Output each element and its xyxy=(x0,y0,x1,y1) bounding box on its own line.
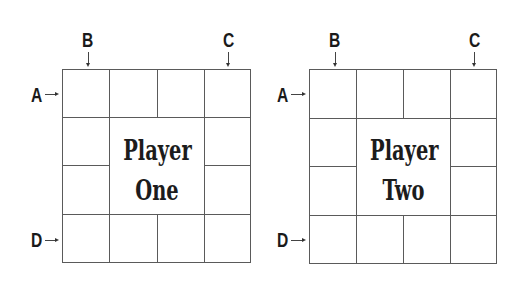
arrow-b-icon xyxy=(335,52,336,64)
title-line-1: Player xyxy=(370,131,437,171)
arrow-a-icon xyxy=(291,94,303,95)
label-a: A xyxy=(277,85,288,105)
player-two-board: B C A D Player Two xyxy=(0,0,520,281)
grid-line xyxy=(356,69,357,264)
label-b: B xyxy=(329,30,340,50)
label-d: D xyxy=(277,230,288,250)
arrow-d-icon xyxy=(291,240,303,241)
arrow-c-icon xyxy=(474,52,475,64)
grid-line xyxy=(309,166,356,167)
grid-line xyxy=(403,215,404,264)
player-two-title: Player Two xyxy=(370,131,437,211)
grid-line xyxy=(309,118,497,119)
label-c: C xyxy=(469,30,480,50)
grid-line xyxy=(450,69,451,264)
grid-line xyxy=(450,166,497,167)
grid-line xyxy=(403,69,404,118)
title-line-2: Two xyxy=(370,171,437,211)
